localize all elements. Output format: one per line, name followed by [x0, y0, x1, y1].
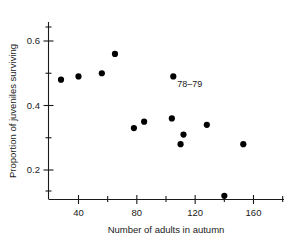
- data-point: [99, 70, 105, 76]
- x-tick-label: 80: [132, 207, 143, 218]
- data-point: [58, 77, 64, 83]
- scatter-chart: 0.20.40.6 4080120160 78–79 Number of adu…: [0, 0, 293, 243]
- data-point: [75, 73, 81, 79]
- data-point: [204, 122, 210, 128]
- y-tick-label: 0.4: [27, 100, 40, 111]
- y-tick-label: 0.6: [27, 35, 40, 46]
- data-point: [170, 73, 176, 79]
- data-point: [131, 125, 137, 131]
- point-annotation-label: 78–79: [177, 79, 202, 89]
- data-point: [177, 141, 183, 147]
- x-tick-group: 4080120160: [73, 195, 282, 218]
- x-axis: 4080120160: [49, 195, 285, 218]
- y-tick-label: 0.2: [27, 164, 40, 175]
- data-point: [141, 119, 147, 125]
- y-axis: 0.20.40.6: [27, 22, 54, 199]
- data-point: [221, 193, 227, 199]
- data-point: [180, 131, 186, 137]
- x-axis-title: Number of adults in autumn: [108, 224, 225, 235]
- y-tick-group: 0.20.40.6: [27, 27, 54, 191]
- data-point-group: [58, 51, 246, 199]
- x-tick-label: 40: [73, 207, 84, 218]
- x-tick-label: 160: [246, 207, 262, 218]
- x-tick-label: 120: [187, 207, 203, 218]
- y-axis-title: Proportion of juveniles surviving: [7, 44, 18, 178]
- data-point: [112, 51, 118, 57]
- chart-canvas: 0.20.40.6 4080120160 78–79 Number of adu…: [0, 0, 293, 243]
- annotation-group: 78–79: [177, 79, 202, 89]
- data-point: [240, 141, 246, 147]
- data-point: [169, 115, 175, 121]
